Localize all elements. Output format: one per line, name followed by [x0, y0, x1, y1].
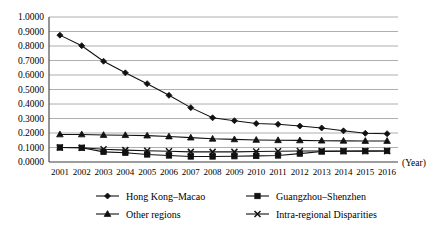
legend-label: Intra-regional Disparities — [276, 209, 377, 220]
x-axis-tick-label: 2013 — [313, 167, 332, 177]
x-axis-tick-label: 2003 — [95, 167, 114, 177]
series-line — [60, 148, 387, 152]
x-axis-tick-label: 2016 — [378, 167, 397, 177]
x-axis-title: (Year) — [402, 158, 426, 169]
data-point-marker — [253, 121, 259, 127]
data-point-marker — [210, 115, 216, 121]
data-point-marker — [275, 121, 281, 127]
data-point-marker — [297, 123, 303, 129]
x-axis-tick-label: 2015 — [356, 167, 375, 177]
x-axis-tick-label: 2011 — [269, 167, 287, 177]
x-axis-tick-label: 2012 — [291, 167, 309, 177]
x-axis-tick-label: 2014 — [334, 167, 353, 177]
y-axis-tick-label: 0.4000 — [18, 99, 44, 109]
data-point-marker — [362, 130, 368, 136]
y-axis-tick-label: 0.0000 — [18, 157, 44, 167]
legend-item-1: Hong Kong–Macao — [96, 191, 205, 202]
y-axis-tick-label: 1.0000 — [18, 12, 44, 22]
data-point-marker — [188, 105, 194, 111]
line-chart: 1.00000.90000.80000.70000.60000.50000.40… — [0, 0, 439, 233]
x-axis-tick-label: 2010 — [247, 167, 266, 177]
data-point-marker — [105, 193, 111, 199]
data-point-marker — [57, 32, 63, 38]
y-axis-tick-label: 0.8000 — [18, 41, 44, 51]
data-point-marker — [255, 193, 260, 198]
y-axis-tick-label: 0.6000 — [18, 70, 44, 80]
legend-label: Hong Kong–Macao — [126, 191, 205, 202]
chart-canvas: 1.00000.90000.80000.70000.60000.50000.40… — [0, 0, 439, 233]
series-line — [60, 35, 387, 134]
x-axis-tick-label: 2004 — [116, 167, 135, 177]
x-axis-tick-label: 2006 — [160, 167, 179, 177]
x-axis-tick-label: 2008 — [204, 167, 223, 177]
x-axis-tick-label: 2009 — [225, 167, 244, 177]
legend-item-2: Guangzhou–Shenzhen — [246, 191, 366, 202]
y-axis-tick-label: 0.3000 — [18, 114, 44, 124]
data-point-marker — [384, 131, 390, 137]
legend-item-3: Other regions — [96, 209, 181, 220]
x-axis-tick-label: 2007 — [182, 167, 201, 177]
y-axis-tick-label: 0.9000 — [18, 27, 44, 37]
data-point-marker — [144, 81, 150, 87]
y-axis-tick-label: 0.7000 — [18, 56, 44, 66]
legend-label: Guangzhou–Shenzhen — [276, 191, 366, 202]
legend-label: Other regions — [126, 209, 181, 220]
x-axis-tick-label: 2002 — [73, 167, 91, 177]
data-point-marker — [319, 125, 325, 131]
y-axis-tick-label: 0.2000 — [18, 128, 44, 138]
series-4 — [57, 145, 390, 155]
data-point-marker — [166, 92, 172, 98]
series-1 — [57, 32, 390, 137]
x-axis-tick-label: 2001 — [51, 167, 69, 177]
y-axis-tick-label: 0.5000 — [18, 85, 44, 95]
y-axis-tick-label: 0.1000 — [18, 143, 44, 153]
legend-item-4: Intra-regional Disparities — [246, 209, 377, 220]
series-line — [60, 134, 387, 141]
x-axis-tick-label: 2005 — [138, 167, 157, 177]
